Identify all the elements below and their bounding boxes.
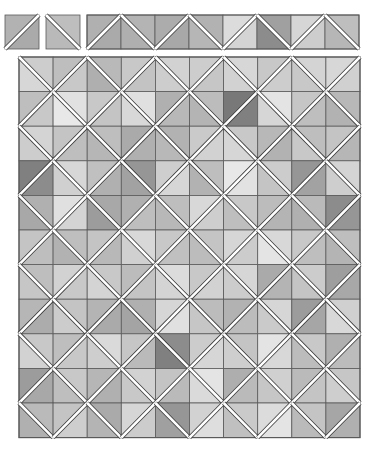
quilt-diagram [0, 0, 371, 452]
legend-blocks [5, 15, 80, 49]
